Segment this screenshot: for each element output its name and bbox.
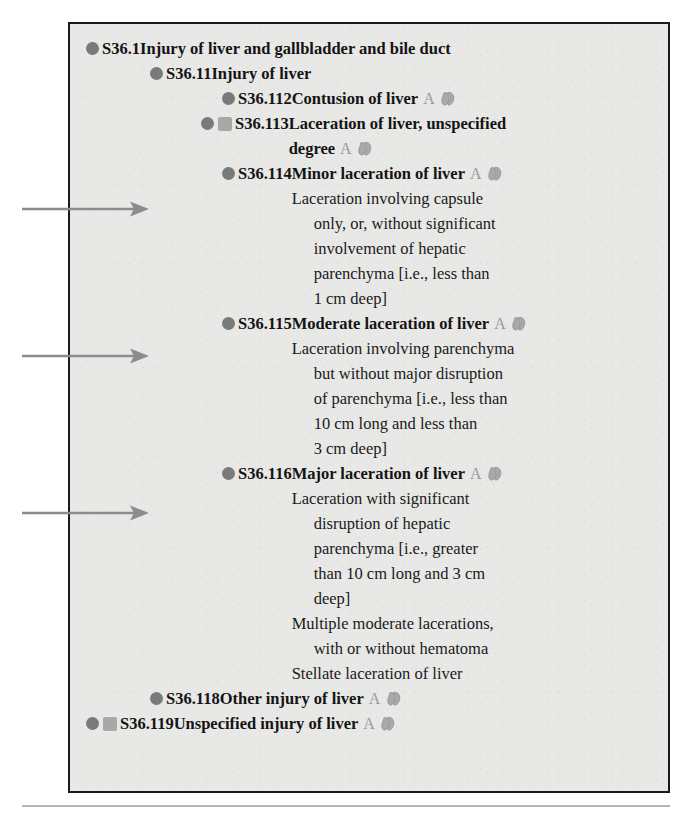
code-row[interactable]: S36.112Contusion of liverA xyxy=(70,86,668,111)
code-row[interactable]: S36.119Unspecified injury of liverA xyxy=(70,711,668,736)
code-note-line: Laceration involving capsule xyxy=(314,186,668,211)
code-title-wrap: Moderate laceration of liverALaceration … xyxy=(292,311,668,461)
code-row-icons xyxy=(201,111,232,136)
code-badge-a: A xyxy=(489,315,506,332)
page-footer-rule xyxy=(22,805,670,807)
code-note-line: deep] xyxy=(314,586,668,611)
code-note-block: Stellate laceration of liver xyxy=(292,661,668,686)
code-note-line: parenchyma [i.e., less than xyxy=(314,261,668,286)
code-note-block: Laceration with significantdisruption of… xyxy=(292,486,668,611)
code-note-line: Laceration with significant xyxy=(314,486,668,511)
code-note-block: Laceration involving parenchymabut witho… xyxy=(292,336,668,461)
code-note-line: Stellate laceration of liver xyxy=(314,661,668,686)
code-note-line: 10 cm long and less than xyxy=(314,411,668,436)
code-badge-a: A xyxy=(465,465,482,482)
code-row-icons xyxy=(150,61,163,86)
bullet-dot-icon xyxy=(222,317,235,330)
code-badge-a: A xyxy=(418,90,435,107)
code-identifier: S36.1 xyxy=(99,36,140,61)
code-note-block: Laceration involving capsuleonly, or, wi… xyxy=(292,186,668,311)
bullet-dot-icon xyxy=(150,67,163,80)
bullet-dot-icon xyxy=(150,692,163,705)
code-note-line: but without major disruption xyxy=(314,361,668,386)
code-row-list: S36.1Injury of liver and gallbladder and… xyxy=(70,24,668,736)
code-note-line: Laceration involving parenchyma xyxy=(314,336,668,361)
code-title: Moderate laceration of liver xyxy=(292,314,489,333)
code-identifier: S36.115 xyxy=(235,311,292,336)
bullet-dot-icon xyxy=(222,92,235,105)
code-title: Injury of liver and gallbladder and bile… xyxy=(140,39,451,58)
code-identifier: S36.11 xyxy=(163,61,211,86)
code-note-line: 1 cm deep] xyxy=(314,286,668,311)
code-row[interactable]: S36.11Injury of liver xyxy=(70,61,668,86)
arrow-to-s36-116 xyxy=(22,505,149,521)
code-annotation-icon[interactable] xyxy=(379,716,396,732)
code-listing-box: S36.1Injury of liver and gallbladder and… xyxy=(68,22,670,793)
code-row[interactable]: S36.113Laceration of liver, unspecifiedd… xyxy=(70,111,668,161)
code-row[interactable]: S36.114Minor laceration of liverALacerat… xyxy=(70,161,668,311)
code-identifier: S36.119 xyxy=(117,711,174,736)
code-title-wrap: Contusion of liverA xyxy=(292,86,668,111)
code-badge-a: A xyxy=(335,140,352,157)
code-title-wrap: Laceration of liver, unspecifieddegreeA xyxy=(289,111,668,161)
code-note-line: parenchyma [i.e., greater xyxy=(314,536,668,561)
code-title: Other injury of liver xyxy=(220,689,364,708)
code-title-wrap: Other injury of liverA xyxy=(220,686,668,711)
page-canvas: S36.1Injury of liver and gallbladder and… xyxy=(0,0,692,820)
code-annotation-icon[interactable] xyxy=(439,91,456,107)
code-title: Major laceration of liver xyxy=(292,464,465,483)
bullet-dot-icon xyxy=(86,42,99,55)
code-title-wrap: Injury of liver and gallbladder and bile… xyxy=(140,36,668,61)
arrow-to-s36-114 xyxy=(22,201,149,217)
code-row[interactable]: S36.118Other injury of liverA xyxy=(70,686,668,711)
code-title: Minor laceration of liver xyxy=(292,164,465,183)
bullet-dot-icon xyxy=(86,717,99,730)
code-identifier: S36.118 xyxy=(163,686,220,711)
code-row[interactable]: S36.1Injury of liver and gallbladder and… xyxy=(70,36,668,61)
code-badge-a: A xyxy=(358,715,375,732)
blue-square-icon xyxy=(103,717,117,731)
code-note-line: than 10 cm long and 3 cm xyxy=(314,561,668,586)
code-title: Injury of liver xyxy=(211,64,311,83)
code-title-wrap: Unspecified injury of liverA xyxy=(174,711,668,736)
code-row-icons xyxy=(150,686,163,711)
code-note-line: disruption of hepatic xyxy=(314,511,668,536)
code-note-line: involvement of hepatic xyxy=(314,236,668,261)
code-note-line: with or without hematoma xyxy=(314,636,668,661)
code-row-icons xyxy=(86,711,117,736)
code-row-icons xyxy=(222,461,235,486)
code-identifier: S36.113 xyxy=(232,111,289,136)
code-note-line: of parenchyma [i.e., less than xyxy=(314,386,668,411)
code-row-icons xyxy=(222,86,235,111)
code-row-icons xyxy=(86,36,99,61)
code-row[interactable]: S36.115Moderate laceration of liverALace… xyxy=(70,311,668,461)
code-annotation-icon[interactable] xyxy=(385,691,402,707)
code-row-icons xyxy=(222,311,235,336)
arrow-to-s36-115 xyxy=(22,348,149,364)
code-title: Unspecified injury of liver xyxy=(174,714,359,733)
code-identifier: S36.116 xyxy=(235,461,292,486)
code-note-line: Multiple moderate lacerations, xyxy=(314,611,668,636)
bullet-dot-icon xyxy=(201,117,214,130)
code-title-wrap: Minor laceration of liverALaceration inv… xyxy=(292,161,668,311)
code-note-line: only, or, without significant xyxy=(314,211,668,236)
blue-square-icon xyxy=(218,117,232,131)
code-note-block: Multiple moderate lacerations,with or wi… xyxy=(292,611,668,661)
code-note-line: 3 cm deep] xyxy=(314,436,668,461)
bullet-dot-icon xyxy=(222,467,235,480)
code-annotation-icon[interactable] xyxy=(486,166,503,182)
code-identifier: S36.112 xyxy=(235,86,292,111)
code-annotation-icon[interactable] xyxy=(510,316,527,332)
code-badge-a: A xyxy=(465,165,482,182)
code-title-wrap: Major laceration of liverALaceration wit… xyxy=(292,461,668,686)
code-title: Laceration of liver, unspecified xyxy=(289,114,507,133)
code-title-wrap: Injury of liver xyxy=(211,61,668,86)
code-title-continued: degree xyxy=(289,139,335,158)
bullet-dot-icon xyxy=(222,167,235,180)
code-identifier: S36.114 xyxy=(235,161,292,186)
code-title: Contusion of liver xyxy=(292,89,419,108)
code-badge-a: A xyxy=(364,690,381,707)
code-annotation-icon[interactable] xyxy=(356,141,373,157)
code-row[interactable]: S36.116Major laceration of liverALacerat… xyxy=(70,461,668,686)
code-annotation-icon[interactable] xyxy=(486,466,503,482)
